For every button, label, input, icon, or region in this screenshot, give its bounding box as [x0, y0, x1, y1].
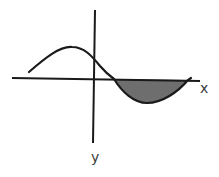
function-graph	[0, 0, 219, 177]
y-axis	[93, 10, 95, 143]
x-axis	[12, 78, 200, 81]
y-axis-label: y	[91, 150, 99, 164]
x-axis-label: x	[200, 81, 208, 95]
